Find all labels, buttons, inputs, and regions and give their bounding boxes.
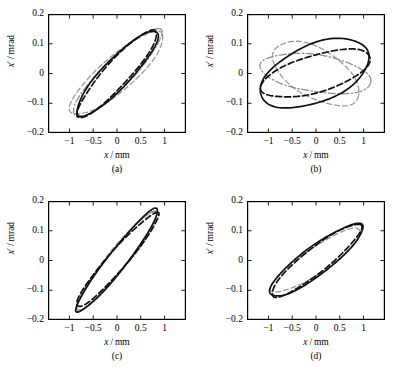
x-tick-label: −1 <box>253 137 283 147</box>
plot-svg-b <box>247 14 385 133</box>
plot-frame <box>248 202 385 320</box>
x-tick-label: 0.5 <box>325 137 355 147</box>
y-tick-label: −0.1 <box>8 98 44 108</box>
y-tick-label: −0.1 <box>207 98 243 108</box>
x-tick-label: −1 <box>54 324 84 334</box>
y-axis-label-a: x′ / mrad <box>6 21 16 81</box>
phase-space-figure: 0.20.10−0.1−0.2−1−0.500.51 x′ / mrad x /… <box>0 0 398 374</box>
x-tick-label: 0 <box>102 324 132 334</box>
plot-area-d <box>247 201 385 320</box>
panel-c: 0.20.10−0.1−0.2−1−0.500.51 x′ / mrad x /… <box>0 187 199 374</box>
x-tick-label: −0.5 <box>78 137 108 147</box>
plot-svg-c <box>48 201 186 320</box>
y-tick-label: −0.2 <box>207 315 243 325</box>
x-tick-label: 0.5 <box>126 324 156 334</box>
x-tick-label: 1 <box>349 137 379 147</box>
y-axis-label-c: x′ / mrad <box>6 208 16 268</box>
x-tick-label: −1 <box>253 324 283 334</box>
panel-a: 0.20.10−0.1−0.2−1−0.500.51 x′ / mrad x /… <box>0 0 199 187</box>
y-tick-label: −0.2 <box>8 315 44 325</box>
y-axis-label-b: x′ / mrad <box>205 21 215 81</box>
panel-label-a: (a) <box>48 164 186 174</box>
x-tick-label: −0.5 <box>78 324 108 334</box>
y-tick-label: 0.2 <box>207 196 243 206</box>
x-tick-label: 1 <box>349 324 379 334</box>
panel-d: 0.20.10−0.1−0.2−1−0.500.51 x′ / mrad x /… <box>199 187 398 374</box>
x-tick-label: 0 <box>301 324 331 334</box>
panel-label-c: (c) <box>48 351 186 361</box>
x-tick-label: 1 <box>150 137 180 147</box>
y-tick-label: 0.2 <box>207 9 243 19</box>
panel-label-d: (d) <box>247 351 385 361</box>
plot-svg-d <box>247 201 385 320</box>
plot-area-c <box>48 201 186 320</box>
panel-b: 0.20.10−0.1−0.2−1−0.500.51 x′ / mrad x /… <box>199 0 398 187</box>
y-tick-label: −0.1 <box>8 285 44 295</box>
plot-area-b <box>247 14 385 133</box>
plot-svg-a <box>48 14 186 133</box>
x-axis-label-a: x / mm <box>48 150 186 160</box>
x-tick-label: −0.5 <box>277 137 307 147</box>
plot-area-a <box>48 14 186 133</box>
x-tick-label: 0.5 <box>325 324 355 334</box>
x-axis-label-c: x / mm <box>48 337 186 347</box>
y-tick-label: −0.2 <box>8 128 44 138</box>
plot-frame <box>49 15 186 133</box>
x-tick-label: 0 <box>301 137 331 147</box>
x-axis-label-d: x / mm <box>247 337 385 347</box>
x-tick-label: 0 <box>102 137 132 147</box>
y-tick-label: −0.2 <box>207 128 243 138</box>
y-tick-label: 0.2 <box>8 196 44 206</box>
panel-label-b: (b) <box>247 164 385 174</box>
y-tick-label: 0.2 <box>8 9 44 19</box>
x-axis-label-b: x / mm <box>247 150 385 160</box>
x-tick-label: −0.5 <box>277 324 307 334</box>
x-tick-label: 0.5 <box>126 137 156 147</box>
x-tick-label: −1 <box>54 137 84 147</box>
y-axis-label-d: x′ / mrad <box>205 208 215 268</box>
y-tick-label: −0.1 <box>207 285 243 295</box>
x-tick-label: 1 <box>150 324 180 334</box>
plot-frame <box>49 202 186 320</box>
